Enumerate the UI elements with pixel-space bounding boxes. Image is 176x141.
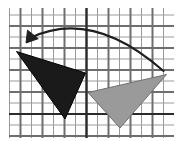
figure-container [0,0,176,141]
coordinate-grid-figure [0,0,176,141]
